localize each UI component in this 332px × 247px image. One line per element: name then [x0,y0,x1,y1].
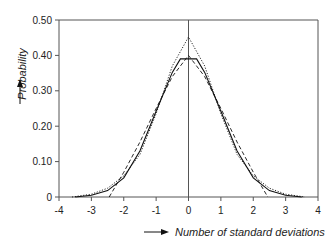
x-tick-label: -3 [87,205,96,216]
y-tick-label: 0.40 [33,50,53,61]
y-tick-label: 0.10 [33,156,53,167]
x-axis-label: Number of standard deviations [175,226,325,238]
x-tick-label: 0 [186,205,192,216]
x-tick-label: 2 [250,205,256,216]
x-tick-label: -4 [55,205,64,216]
y-tick-label: 0.20 [33,121,53,132]
x-tick-label: 3 [283,205,289,216]
y-tick-label: 0.50 [33,15,53,26]
x-tick-label: -1 [152,205,161,216]
y-axis-label: Probability [16,47,28,100]
x-tick-label: 4 [315,205,321,216]
y-tick-label: 0 [46,192,52,203]
axes: -4-3-2-10123400.100.200.300.400.50 [33,15,322,217]
y-tick-label: 0.30 [33,85,53,96]
normal-distribution-chart: -4-3-2-10123400.100.200.300.400.50 Proba… [0,0,332,247]
x-tick-label: 1 [218,205,224,216]
x-arrow-icon [144,229,169,235]
x-tick-label: -2 [119,205,128,216]
